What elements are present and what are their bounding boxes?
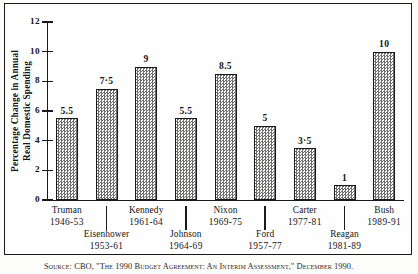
category-label: Truman1946-53 [34,205,100,228]
label-separator [264,206,265,230]
label-separator [344,206,345,230]
category-label: Eisenhower1953-61 [74,229,140,252]
category-years: 1964-69 [153,241,219,253]
bar-value-label: 8.5 [204,60,248,71]
category-label: Reagan1981-89 [312,229,378,252]
bar-value-label: 1 [323,172,367,183]
bar [334,185,356,200]
label-separator [106,206,107,230]
bar [56,118,78,200]
category-years: 1989-91 [351,217,417,229]
category-years: 1981-89 [312,241,378,253]
category-name: Eisenhower [74,229,140,241]
category-years: 1961-64 [113,217,179,229]
category-years: 1957-77 [232,241,298,253]
bar-value-label: 9 [124,53,168,64]
category-label: Nixon1969-75 [193,205,259,228]
category-name: Truman [34,205,100,217]
bar-value-label: 5.5 [164,105,208,116]
category-name: Reagan [312,229,378,241]
category-name: Bush [351,205,417,217]
category-name: Kennedy [113,205,179,217]
bar [175,118,197,200]
bar-value-label: 5.5 [45,105,89,116]
category-name: Johnson [153,229,219,241]
bar-value-label: 7·5 [85,75,129,86]
category-years: 1953-61 [74,241,140,253]
bar [294,148,316,200]
bar-value-label: 5 [243,112,287,123]
category-name: Nixon [193,205,259,217]
label-separator [185,206,186,230]
category-years: 1969-75 [193,217,259,229]
bar-value-label: 3·5 [283,135,327,146]
category-label: Carter1977-81 [272,205,338,228]
bar [215,74,237,200]
category-label: Kennedy1961-64 [113,205,179,228]
category-years: 1977-81 [272,217,338,229]
category-label: Johnson1964-69 [153,229,219,252]
category-label: Bush1989-91 [351,205,417,228]
bar [135,67,157,201]
figure: Percentage Change in Annual Real Domesti… [0,0,418,274]
category-name: Carter [272,205,338,217]
bar [373,52,395,200]
source-note: Source: CBO, "The 1990 Budget Agreement:… [44,262,404,272]
category-label: Ford1957-77 [232,229,298,252]
category-name: Ford [232,229,298,241]
bar [96,89,118,200]
category-years: 1946-53 [34,217,100,229]
bar [254,126,276,200]
bar-value-label: 10 [362,38,406,49]
